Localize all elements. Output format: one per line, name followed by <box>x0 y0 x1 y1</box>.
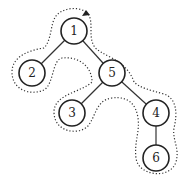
node-label: 6 <box>152 151 160 165</box>
node-label: 5 <box>108 66 116 80</box>
node-label: 4 <box>152 106 160 120</box>
tree-diagram: 1 2 5 3 4 6 <box>0 0 188 189</box>
node-label: 3 <box>68 106 76 120</box>
tree-node-6: 6 <box>143 145 169 171</box>
tree-node-3: 3 <box>59 100 85 126</box>
tree-node-5: 5 <box>99 60 125 86</box>
tree-node-4: 4 <box>143 100 169 126</box>
tour-arrowhead-icon <box>82 10 90 16</box>
node-label: 2 <box>28 66 36 80</box>
tree-node-1: 1 <box>61 18 87 44</box>
edges <box>32 31 156 158</box>
node-label: 1 <box>70 24 78 38</box>
tree-node-2: 2 <box>19 60 45 86</box>
